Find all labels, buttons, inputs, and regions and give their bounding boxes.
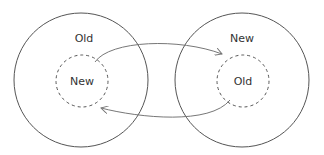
left-outer-label: Old — [75, 32, 94, 45]
swap-diagram: Old New New Old — [0, 0, 324, 155]
right-inner-label: Old — [234, 75, 253, 88]
arrow-right-to-left — [101, 100, 230, 117]
arrow-left-to-right — [95, 44, 222, 62]
left-circle-group: Old New — [14, 13, 148, 147]
left-inner-label: New — [70, 75, 94, 88]
right-outer-label: New — [230, 32, 254, 45]
right-circle-group: New Old — [175, 13, 309, 147]
